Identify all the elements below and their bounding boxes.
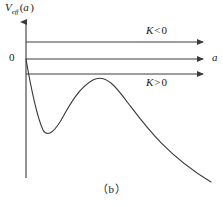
y-axis-label: Veff(a)	[5, 2, 34, 16]
plot-canvas	[0, 0, 223, 207]
k-negative-value: 0	[162, 24, 168, 36]
y-axis-label-close-paren: )	[30, 1, 34, 13]
origin-label: 0	[9, 52, 15, 63]
y-axis-label-argument: a	[23, 1, 29, 13]
figure-caption: （b）	[97, 184, 126, 195]
k-positive-annotation: K>0	[146, 77, 167, 88]
y-axis-label-main: V	[5, 1, 12, 13]
k-negative-variable: K	[146, 24, 153, 36]
k-positive-value: 0	[162, 76, 168, 88]
figure-container: Veff(a) 0 a K<0 K>0 （b）	[0, 0, 223, 207]
y-axis-label-subscript: eff	[12, 8, 18, 16]
k-positive-variable: K	[146, 76, 153, 88]
x-axis-label: a	[212, 52, 218, 63]
k-positive-operator: >	[154, 76, 160, 88]
k-negative-annotation: K<0	[146, 25, 167, 36]
v-eff-curve	[26, 59, 211, 182]
k-negative-operator: <	[154, 24, 160, 36]
